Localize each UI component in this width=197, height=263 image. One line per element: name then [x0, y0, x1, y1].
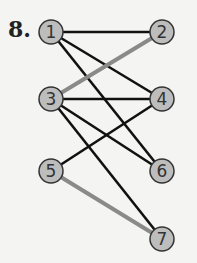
svg-text:7: 7: [157, 229, 168, 249]
svg-text:2: 2: [157, 22, 168, 42]
node-1: 1: [39, 20, 63, 44]
node-2: 2: [150, 20, 174, 44]
edges-group: [51, 32, 162, 239]
svg-text:4: 4: [157, 89, 168, 109]
edge-1-6: [51, 32, 162, 171]
node-3: 3: [39, 87, 63, 111]
svg-text:5: 5: [46, 161, 57, 181]
svg-text:6: 6: [157, 161, 168, 181]
node-7: 7: [150, 227, 174, 251]
node-5: 5: [39, 159, 63, 183]
edge-3-7: [51, 99, 162, 239]
svg-text:3: 3: [46, 89, 57, 109]
bipartite-graph: 1234567: [0, 0, 197, 263]
node-4: 4: [150, 87, 174, 111]
node-6: 6: [150, 159, 174, 183]
edge-5-7: [51, 171, 162, 239]
svg-text:1: 1: [46, 22, 57, 42]
